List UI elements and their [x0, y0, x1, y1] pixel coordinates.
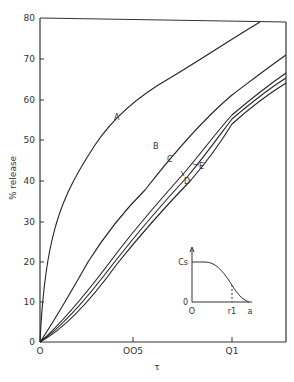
y-tick-50: 50: [24, 135, 36, 145]
inset-origin-label: O: [189, 307, 195, 316]
inset-profile-curve: [192, 262, 249, 302]
x-axis-title: τ: [154, 362, 159, 372]
curve-label-c: C: [167, 155, 173, 164]
y-tick-labels: 80 70 60 50 40 30 20 10 0: [24, 13, 36, 347]
curve-label-e: E: [199, 162, 204, 171]
y-tick-70: 70: [24, 54, 36, 64]
inset-cs-label: Cs: [178, 258, 188, 267]
x-ticks: [133, 337, 232, 342]
y-tick-40: 40: [24, 176, 36, 186]
curve-label-d: D: [184, 177, 190, 186]
plot-frame: [40, 18, 286, 342]
curve-labels: A B C E D: [114, 113, 204, 186]
x-tick-0: O: [36, 346, 43, 356]
curve-label-a: A: [114, 113, 120, 122]
x-tick-labels: O OO5 Q1: [36, 346, 238, 356]
inset-c0-label: 0: [183, 298, 188, 307]
curve-label-b: B: [153, 142, 159, 151]
y-axis-title: % release: [8, 155, 18, 200]
y-tick-0: 0: [29, 337, 35, 347]
release-chart: 80 70 60 50 40 30 20 10 0 O OO5 Q1 τ % r…: [0, 0, 294, 382]
y-tick-60: 60: [24, 95, 36, 105]
curves: [40, 22, 286, 342]
curve-b: [40, 55, 286, 342]
y-tick-80: 80: [24, 13, 36, 23]
y-tick-10: 10: [24, 297, 36, 307]
inset-a-label: a: [248, 307, 253, 316]
x-tick-0.05: OO5: [123, 346, 143, 356]
inset-profile-chart: Cs 0 O r1 a: [178, 247, 252, 316]
y-tick-20: 20: [24, 257, 36, 267]
curve-a: [40, 22, 260, 342]
inset-r1-label: r1: [228, 307, 236, 316]
top-border: [40, 18, 286, 22]
x-tick-0.1: Q1: [226, 346, 239, 356]
y-tick-30: 30: [24, 217, 36, 227]
